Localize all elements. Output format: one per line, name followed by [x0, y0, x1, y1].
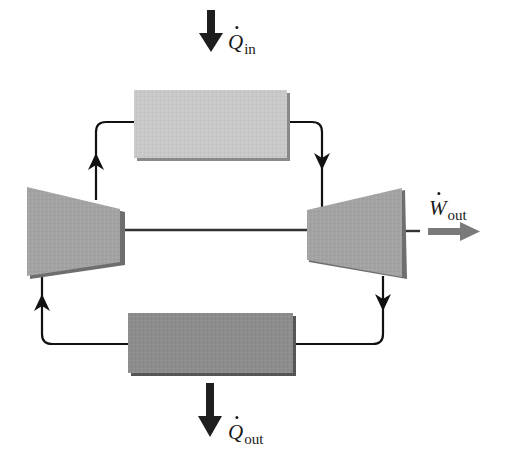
heat-in-label: Qin [228, 32, 256, 53]
heat-in-subscript: in [244, 41, 256, 57]
cooler-box [128, 313, 296, 376]
heater-box [134, 90, 290, 161]
heat-in-symbol: Q [228, 30, 243, 54]
work-out-arrow-icon [428, 222, 480, 241]
cycle-diagram [0, 0, 509, 459]
compressor [27, 187, 125, 279]
work-out-label: Wout [429, 198, 467, 219]
work-out-symbol: W [429, 196, 447, 220]
heat-out-subscript: out [244, 431, 263, 447]
heat-out-arrow-icon [198, 383, 222, 437]
work-out-subscript: out [448, 207, 467, 223]
heat-out-symbol: Q [228, 420, 243, 444]
heat-in-arrow-icon [199, 10, 223, 52]
heat-out-label: Qout [228, 422, 263, 443]
